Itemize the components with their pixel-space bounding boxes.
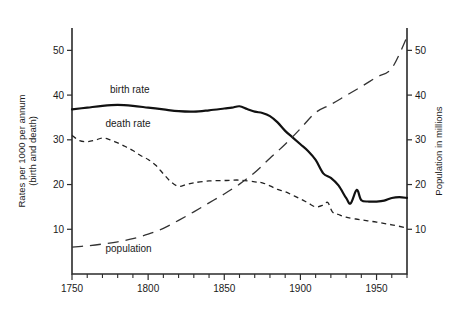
y-axis-tick-label: 40 — [53, 90, 65, 101]
y2-axis-tick-label: 50 — [415, 45, 427, 56]
y-axis-tick-label: 30 — [53, 134, 65, 145]
y-axis-tick-label: 50 — [53, 45, 65, 56]
x-axis-tick-label: 1900 — [289, 283, 312, 294]
chart-axes-frame — [72, 28, 407, 274]
series-annotation-birth-rate: birth rate — [110, 84, 150, 95]
y-axis-title: Rates per 1000 per annum(birth and death… — [16, 94, 38, 207]
series-annotation-population: population — [106, 243, 152, 254]
y2-axis-tick-label: 20 — [415, 179, 427, 190]
y-axis-tick-label: 10 — [53, 224, 65, 235]
y2-axis-tick-label: 30 — [415, 134, 427, 145]
x-axis-tick-label: 1850 — [213, 283, 236, 294]
series-annotation-death-rate: death rate — [106, 118, 151, 129]
series-line-death-rate — [72, 135, 407, 228]
x-axis-tick-label: 1800 — [137, 283, 160, 294]
x-axis-tick-label: 1750 — [61, 283, 84, 294]
x-axis-tick-label: 1950 — [365, 283, 388, 294]
population-and-vital-rates-chart: 1020304050102030405017501800185019001950… — [0, 0, 464, 312]
y2-axis-title: Population in millions — [433, 106, 444, 195]
series-line-population — [72, 37, 407, 247]
y-axis-tick-label: 20 — [53, 179, 65, 190]
y2-axis-tick-label: 10 — [415, 224, 427, 235]
y2-axis-tick-label: 40 — [415, 90, 427, 101]
